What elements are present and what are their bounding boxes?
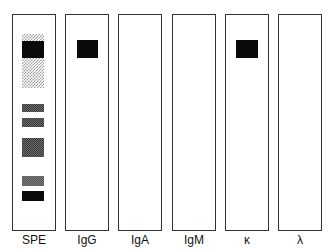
- label-igg: IgG: [65, 233, 109, 247]
- lane-iga: [118, 14, 162, 231]
- spe-band-albumin: [22, 191, 44, 201]
- label-lambda: λ: [278, 233, 322, 247]
- spe-band-alpha2: [22, 138, 44, 157]
- spe-band-alpha1: [22, 176, 44, 186]
- spe-monoclonal-band: [22, 41, 44, 58]
- label-kappa: κ: [225, 233, 269, 247]
- lane-lambda: [278, 14, 322, 231]
- lane-igg: [65, 14, 109, 231]
- lane-kappa: [225, 14, 269, 231]
- label-spe: SPE: [12, 233, 56, 247]
- label-igm: IgM: [172, 233, 216, 247]
- igg-band: [77, 40, 98, 58]
- kappa-band: [236, 40, 258, 58]
- spe-band-beta2: [22, 104, 44, 112]
- lane-spe: [12, 14, 56, 231]
- spe-band-beta1: [22, 118, 44, 127]
- lane-igm: [172, 14, 216, 231]
- label-iga: IgA: [118, 233, 162, 247]
